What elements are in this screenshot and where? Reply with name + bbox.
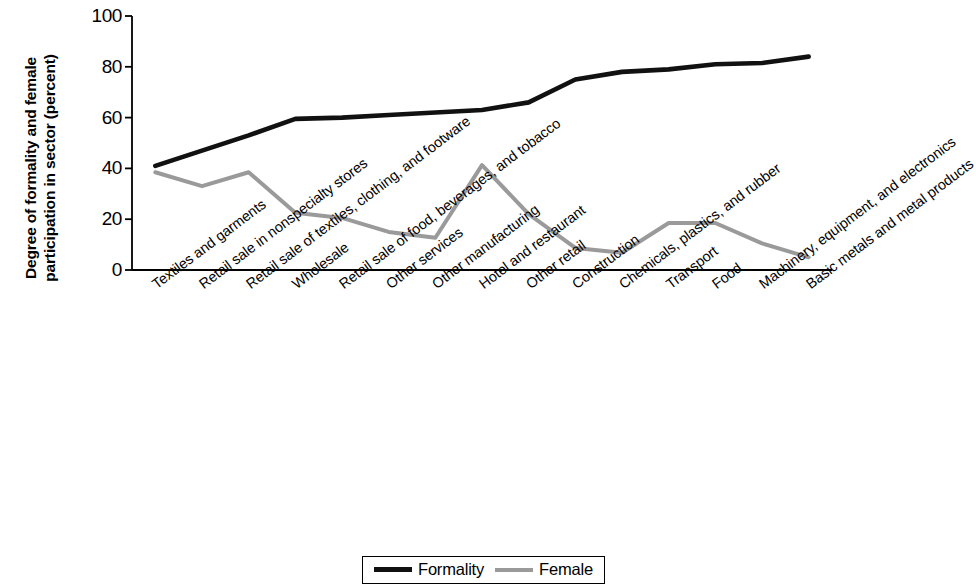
legend-swatch-line-icon xyxy=(374,567,412,571)
legend-swatch-line-icon xyxy=(495,568,533,572)
legend-item-female[interactable]: Female xyxy=(495,560,593,579)
legend-label-female: Female xyxy=(539,560,593,579)
legend-item-formality[interactable]: Formality xyxy=(374,560,484,579)
legend-label-formality: Formality xyxy=(418,560,484,579)
chart-legend: Formality Female xyxy=(362,556,605,584)
series-line-formality[interactable] xyxy=(155,57,808,166)
